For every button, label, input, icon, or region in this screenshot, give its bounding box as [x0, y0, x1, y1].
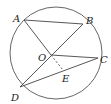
segment-ab	[24, 20, 83, 24]
segment-oe-dashed	[51, 55, 63, 70]
geometry-diagram: A B O C D E	[0, 0, 111, 104]
segment-dc	[20, 58, 98, 87]
diagram-canvas: A B O C D E	[0, 0, 111, 104]
label-a: A	[12, 13, 20, 24]
label-b: B	[85, 15, 93, 26]
segment-oc	[51, 55, 98, 58]
label-d: D	[10, 92, 19, 103]
segment-ao	[24, 20, 51, 55]
label-o: O	[38, 52, 46, 63]
label-e: E	[61, 73, 70, 84]
label-c: C	[100, 54, 108, 65]
